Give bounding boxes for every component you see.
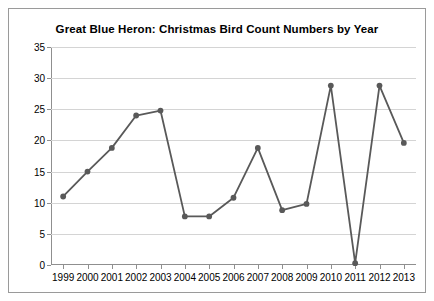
data-point bbox=[352, 260, 358, 266]
data-point bbox=[158, 108, 164, 114]
data-point bbox=[133, 113, 139, 119]
data-point bbox=[182, 214, 188, 220]
chart-frame: Great Blue Heron: Christmas Bird Count N… bbox=[8, 8, 426, 293]
x-tick-label: 2005 bbox=[198, 272, 220, 283]
y-tick-label: 15 bbox=[34, 166, 45, 177]
x-tick-mark bbox=[234, 265, 235, 269]
x-tick-mark bbox=[88, 265, 89, 269]
y-tick-mark bbox=[47, 265, 51, 266]
x-tick-label: 2010 bbox=[320, 272, 342, 283]
x-tick-mark bbox=[258, 265, 259, 269]
x-tick-label: 2007 bbox=[247, 272, 269, 283]
x-tick-mark bbox=[209, 265, 210, 269]
x-tick-mark bbox=[63, 265, 64, 269]
data-point bbox=[328, 83, 334, 89]
x-tick-mark bbox=[331, 265, 332, 269]
x-tick-label: 2006 bbox=[222, 272, 244, 283]
x-tick-mark bbox=[161, 265, 162, 269]
x-tick-label: 2013 bbox=[393, 272, 415, 283]
x-tick-label: 1999 bbox=[52, 272, 74, 283]
y-tick-label: 25 bbox=[34, 104, 45, 115]
chart-title: Great Blue Heron: Christmas Bird Count N… bbox=[9, 23, 425, 35]
data-point bbox=[109, 145, 115, 151]
data-point bbox=[255, 145, 261, 151]
x-tick-label: 2002 bbox=[125, 272, 147, 283]
x-tick-label: 2011 bbox=[344, 272, 366, 283]
x-tick-mark bbox=[136, 265, 137, 269]
data-point bbox=[401, 140, 407, 146]
data-point bbox=[206, 214, 212, 220]
data-point bbox=[60, 194, 66, 200]
data-point bbox=[85, 169, 91, 175]
x-tick-mark bbox=[112, 265, 113, 269]
data-point bbox=[279, 207, 285, 213]
y-tick-label: 0 bbox=[39, 260, 45, 271]
y-tick-label: 5 bbox=[39, 228, 45, 239]
y-tick-label: 10 bbox=[34, 197, 45, 208]
data-point bbox=[231, 195, 237, 201]
x-tick-mark bbox=[282, 265, 283, 269]
plot-area: 05101520253035 1999200020012002200320042… bbox=[51, 47, 416, 265]
chart-container: Great Blue Heron: Christmas Bird Count N… bbox=[0, 0, 434, 301]
x-tick-label: 2008 bbox=[271, 272, 293, 283]
x-tick-mark bbox=[185, 265, 186, 269]
x-tick-mark bbox=[307, 265, 308, 269]
data-point bbox=[304, 201, 310, 207]
series-line bbox=[63, 86, 404, 264]
x-tick-label: 2001 bbox=[101, 272, 123, 283]
x-tick-mark bbox=[380, 265, 381, 269]
y-tick-label: 35 bbox=[34, 42, 45, 53]
data-point bbox=[377, 83, 383, 89]
x-tick-label: 2009 bbox=[295, 272, 317, 283]
y-tick-label: 20 bbox=[34, 135, 45, 146]
x-tick-label: 2003 bbox=[149, 272, 171, 283]
x-tick-label: 2004 bbox=[174, 272, 196, 283]
x-tick-label: 2012 bbox=[368, 272, 390, 283]
data-series-layer bbox=[51, 47, 416, 265]
x-tick-mark bbox=[404, 265, 405, 269]
y-tick-label: 30 bbox=[34, 73, 45, 84]
x-tick-label: 2000 bbox=[76, 272, 98, 283]
